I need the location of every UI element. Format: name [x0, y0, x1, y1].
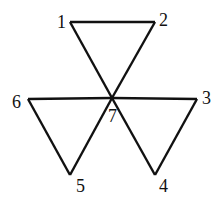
node-label-4: 4 [159, 176, 168, 196]
edge-1-7 [70, 22, 112, 98]
edge-6-7 [28, 98, 112, 99]
edge-4-7 [112, 98, 155, 175]
edges-group [28, 22, 197, 175]
edge-6-5 [28, 99, 70, 175]
node-label-7: 7 [108, 106, 117, 126]
edge-2-7 [112, 22, 155, 98]
node-label-2: 2 [159, 10, 168, 30]
triangle-graph-diagram: 1234567 [0, 0, 213, 201]
node-label-1: 1 [57, 12, 66, 32]
node-label-6: 6 [12, 92, 21, 112]
edge-5-7 [70, 98, 112, 175]
node-label-3: 3 [202, 88, 211, 108]
labels-group: 1234567 [12, 10, 211, 196]
edge-3-4 [155, 99, 197, 175]
edge-7-3 [112, 98, 197, 99]
node-label-5: 5 [76, 176, 85, 196]
